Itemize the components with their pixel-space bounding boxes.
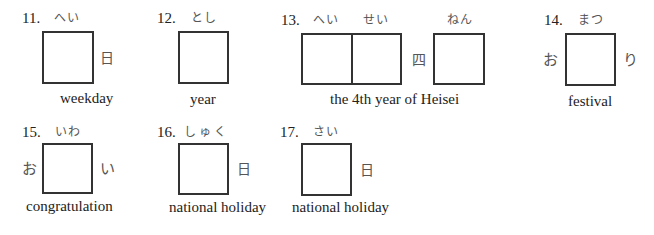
furigana-reading: いわ	[55, 126, 81, 138]
answer-box-1[interactable]	[301, 33, 353, 85]
english-meaning: national holiday	[292, 200, 389, 215]
prefix-kana: お	[543, 53, 558, 68]
answer-box[interactable]	[301, 143, 352, 196]
suffix-kana: い	[100, 162, 115, 177]
english-meaning: the 4th year of Heisei	[330, 92, 459, 107]
item-number: 12.	[157, 11, 176, 26]
furigana-reading: さい	[313, 126, 339, 138]
answer-box[interactable]	[178, 31, 229, 84]
furigana-reading: とし	[191, 12, 217, 24]
furigana-reading: まつ	[578, 14, 604, 26]
item-number: 16.	[157, 125, 176, 140]
furigana-reading-1: へい	[313, 14, 339, 26]
item-number: 13.	[281, 13, 300, 28]
english-meaning: congratulation	[26, 199, 113, 214]
answer-box[interactable]	[42, 31, 94, 84]
item-number: 14.	[544, 13, 563, 28]
suffix-kanji: 日	[100, 51, 114, 65]
answer-box-3[interactable]	[433, 33, 485, 85]
furigana-reading-3: ねん	[447, 14, 473, 26]
english-meaning: festival	[568, 94, 612, 109]
answer-box[interactable]	[178, 143, 229, 195]
english-meaning: national holiday	[169, 200, 266, 215]
answer-box[interactable]	[565, 33, 616, 86]
furigana-reading: しゅく	[184, 126, 229, 138]
answer-box-2[interactable]	[351, 33, 402, 85]
item-number: 15.	[22, 125, 41, 140]
english-meaning: year	[190, 92, 216, 107]
item-number: 17.	[280, 125, 299, 140]
english-meaning: weekday	[60, 91, 113, 106]
furigana-reading: へい	[54, 12, 80, 24]
suffix-kanji: 日	[237, 162, 251, 176]
suffix-kanji: 日	[360, 163, 374, 177]
answer-box[interactable]	[42, 143, 93, 194]
suffix-kana: り	[623, 53, 638, 68]
furigana-reading-2: せい	[363, 14, 389, 26]
prefix-kana: お	[22, 162, 37, 177]
item-number: 11.	[22, 11, 40, 26]
middle-kanji: 四	[412, 53, 426, 67]
